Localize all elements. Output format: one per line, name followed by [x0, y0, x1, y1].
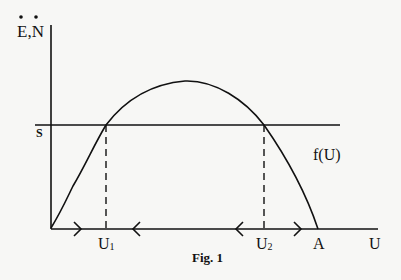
dot-accent-e: [19, 15, 23, 19]
u2-label: U2: [256, 235, 273, 252]
s-label: S: [36, 126, 43, 140]
u1-label: U1: [98, 235, 115, 252]
x-axis-label: U: [369, 235, 381, 252]
dot-accent-n: [34, 15, 38, 19]
figure-diagram: E,N S f(U) U1 U2 A U Fig. 1: [0, 0, 401, 280]
a-label: A: [313, 235, 325, 252]
y-axis-label: E,N: [17, 22, 44, 41]
curve-f-u: [51, 81, 318, 229]
figure-caption: Fig. 1: [192, 250, 223, 265]
curve-label: f(U): [313, 146, 341, 164]
